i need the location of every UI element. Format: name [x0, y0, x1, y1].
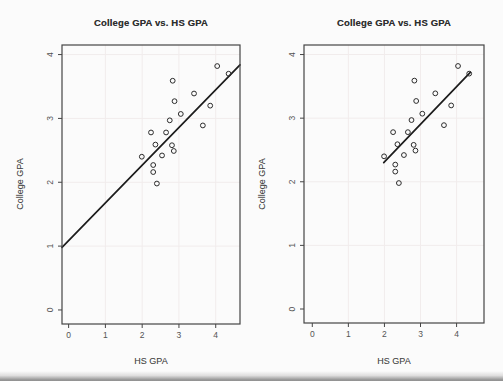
data-point [395, 142, 400, 147]
data-point [149, 130, 154, 135]
data-point [393, 162, 398, 167]
data-point [413, 148, 418, 153]
x-axis-tick-label: 4 [213, 330, 218, 340]
data-point [153, 142, 158, 147]
scan-edge-shadow [0, 371, 503, 381]
data-point [200, 123, 205, 128]
data-point [411, 142, 416, 147]
data-point [170, 78, 175, 83]
x-axis-tick-label: 1 [346, 329, 351, 339]
data-point [172, 99, 177, 104]
y-axis-tick-label: 3 [45, 116, 55, 121]
x-axis-tick-label: 0 [66, 330, 71, 340]
data-point [151, 163, 156, 168]
data-point [171, 149, 176, 154]
data-point [208, 103, 213, 108]
y-axis-tick-label: 1 [287, 243, 297, 248]
data-point [151, 170, 156, 175]
data-point [402, 153, 407, 158]
scatter-plots-canvas: 01234012340123401234 [0, 0, 503, 381]
y-axis-tick-label: 0 [287, 306, 297, 311]
data-point [405, 130, 410, 135]
data-point [442, 123, 447, 128]
data-point [170, 143, 175, 148]
data-point [391, 130, 396, 135]
y-axis-tick-label: 3 [287, 116, 297, 121]
regression-line [384, 72, 471, 162]
data-point [160, 153, 165, 158]
y-axis-tick-label: 2 [45, 180, 55, 185]
y-axis-tick-label: 0 [45, 307, 55, 312]
x-axis-tick-label: 2 [382, 329, 387, 339]
x-axis-tick-label: 3 [418, 329, 423, 339]
x-axis-tick-label: 0 [310, 329, 315, 339]
x-axis-tick-label: 1 [103, 330, 108, 340]
data-point [192, 91, 197, 96]
y-axis-tick-label: 4 [45, 52, 55, 57]
y-axis-tick-label: 4 [287, 52, 297, 57]
data-point [164, 130, 169, 135]
x-axis-tick-label: 2 [140, 330, 145, 340]
y-axis-tick-label: 2 [287, 179, 297, 184]
y-axis-tick-label: 1 [45, 243, 55, 248]
regression-line [62, 65, 240, 248]
x-axis-tick-label: 3 [177, 330, 182, 340]
data-point [393, 169, 398, 174]
data-point [414, 99, 419, 104]
scanned-figure-page: 01234012340123401234 College GPA vs. HS … [0, 0, 503, 381]
data-point [449, 103, 454, 108]
plot-box [62, 45, 240, 324]
data-point [433, 91, 438, 96]
x-axis-tick-label: 4 [454, 329, 459, 339]
data-point [412, 78, 417, 83]
